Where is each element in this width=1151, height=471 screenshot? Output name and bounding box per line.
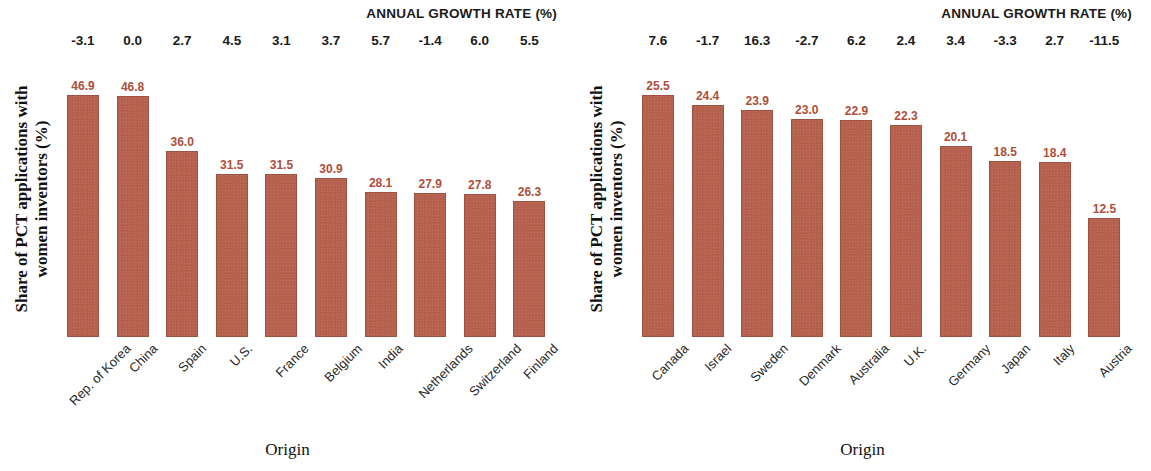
bar-slot: 27.8 [464, 60, 496, 337]
chart-panel-left: ANNUAL GROWTH RATE (%) -3.10.02.74.53.13… [0, 0, 575, 471]
category-tick: France [265, 337, 297, 437]
bar[interactable] [365, 192, 397, 337]
category-tick: India [365, 337, 397, 437]
bar-slot: 25.5 [642, 60, 674, 337]
x-axis-title: Origin [0, 440, 575, 460]
bar-slot: 28.1 [365, 60, 397, 337]
growth-rate-value: -3.1 [67, 31, 117, 51]
bar-value-label: 30.9 [301, 162, 361, 176]
category-tick: Australia [840, 337, 872, 437]
bar[interactable] [315, 178, 347, 337]
growth-rate-value: 0.0 [117, 31, 167, 51]
y-axis-title-line2: women inventors (%) [32, 121, 51, 278]
y-axis-title: Share of PCT applications with women inv… [0, 54, 64, 344]
bar-value-label: 18.4 [1025, 146, 1085, 160]
category-label: India [375, 341, 406, 372]
growth-rate-value: -3.3 [989, 31, 1039, 51]
category-label: Australia [846, 341, 892, 387]
y-axis-title: Share of PCT applications with women inv… [575, 54, 639, 344]
category-label: U.S. [227, 341, 255, 369]
category-label: Italy [1050, 341, 1077, 368]
bar[interactable] [67, 95, 99, 337]
category-axis: Rep. of KoreaChinaSpainU.S.FranceBelgium… [67, 337, 563, 437]
bar[interactable] [890, 125, 922, 337]
bar-slot: 27.9 [414, 60, 446, 337]
bar-slot: 36.0 [166, 60, 198, 337]
category-tick: Netherlands [414, 337, 446, 437]
growth-rate-value: 2.7 [166, 31, 216, 51]
growth-rate-value: -1.7 [692, 31, 742, 51]
growth-rate-value: 2.4 [890, 31, 940, 51]
bar[interactable] [840, 120, 872, 337]
bar[interactable] [464, 194, 496, 337]
bar-slot: 22.9 [840, 60, 872, 337]
bar-value-label: 20.1 [926, 130, 986, 144]
category-tick: Japan [989, 337, 1021, 437]
bar[interactable] [166, 151, 198, 337]
bar[interactable] [741, 110, 773, 337]
category-tick: U.K. [890, 337, 922, 437]
category-label: Canada [649, 341, 692, 384]
bar-slot: 46.9 [67, 60, 99, 337]
bar[interactable] [940, 146, 972, 337]
category-tick: Finland [513, 337, 545, 437]
growth-rate-value: 3.7 [315, 31, 365, 51]
category-label: Japan [998, 341, 1034, 377]
category-label: Denmark [796, 341, 844, 389]
bar[interactable] [513, 201, 545, 337]
category-label: Spain [175, 341, 209, 375]
bar-slot: 18.4 [1039, 60, 1071, 337]
category-label: France [273, 341, 312, 380]
bar[interactable] [1039, 162, 1071, 337]
growth-rate-value: 6.2 [840, 31, 890, 51]
bar[interactable] [642, 95, 674, 337]
category-label: Israel [701, 341, 734, 374]
category-tick: Rep. of Korea [67, 337, 99, 437]
bar-slot: 31.5 [265, 60, 297, 337]
category-tick: Denmark [791, 337, 823, 437]
category-tick: Austria [1088, 337, 1120, 437]
growth-rate-value: -1.4 [414, 31, 464, 51]
growth-rate-value: 3.1 [265, 31, 315, 51]
category-tick: Germany [940, 337, 972, 437]
bar-slot: 31.5 [216, 60, 248, 337]
growth-rate-value: 4.5 [216, 31, 266, 51]
category-tick: Israel [692, 337, 724, 437]
growth-rate-value: 16.3 [741, 31, 791, 51]
bar[interactable] [216, 174, 248, 337]
category-label: Austria [1096, 341, 1135, 380]
bar[interactable] [1088, 218, 1120, 337]
growth-rate-value: 2.7 [1039, 31, 1089, 51]
category-tick: Canada [642, 337, 674, 437]
bar[interactable] [791, 119, 823, 337]
category-tick: Switzerland [464, 337, 496, 437]
bar-slot: 23.0 [791, 60, 823, 337]
category-label: Germany [945, 341, 993, 389]
plot-area: 25.524.423.923.022.922.320.118.518.412.5 [642, 60, 1138, 337]
category-label: Sweden [747, 341, 791, 385]
category-label: Finland [521, 341, 562, 382]
category-tick: Italy [1039, 337, 1071, 437]
growth-rate-row: 7.6-1.716.3-2.76.22.43.4-3.32.7-11.5 [642, 31, 1138, 51]
bar[interactable] [117, 96, 149, 337]
bar-slot: 22.3 [890, 60, 922, 337]
bar-slot: 26.3 [513, 60, 545, 337]
bar-slot: 20.1 [940, 60, 972, 337]
bar-slot: 18.5 [989, 60, 1021, 337]
bar-value-label: 22.3 [876, 109, 936, 123]
bar[interactable] [989, 161, 1021, 337]
category-label: U.K. [901, 341, 929, 369]
category-tick: U.S. [216, 337, 248, 437]
growth-rate-value: 3.4 [940, 31, 990, 51]
bar-slot: 23.9 [741, 60, 773, 337]
growth-rate-value: 5.7 [365, 31, 415, 51]
bar[interactable] [265, 174, 297, 337]
growth-rate-title: ANNUAL GROWTH RATE (%) [366, 6, 557, 21]
growth-rate-value: -2.7 [791, 31, 841, 51]
bar-value-label: 46.8 [103, 80, 163, 94]
bar-value-label: 12.5 [1074, 202, 1134, 216]
bar[interactable] [414, 193, 446, 337]
dual-bar-chart-figure: ANNUAL GROWTH RATE (%) -3.10.02.74.53.13… [0, 0, 1151, 471]
category-tick: China [117, 337, 149, 437]
bar[interactable] [692, 105, 724, 337]
